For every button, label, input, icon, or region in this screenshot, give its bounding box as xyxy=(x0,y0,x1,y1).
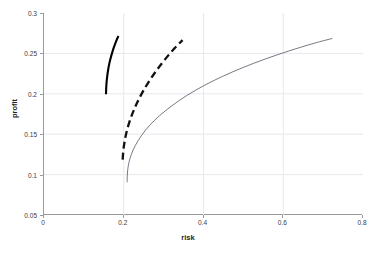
y-tick-mark xyxy=(40,13,43,14)
chart-container: 0.050.10.150.20.250.3 00.20.40.60.8 risk… xyxy=(0,0,376,254)
y-tick-label: 0.15 xyxy=(24,131,37,138)
x-tick-label: 0.8 xyxy=(357,219,366,226)
x-tick-mark xyxy=(362,215,363,218)
series-curve xyxy=(123,40,183,160)
x-axis-title: risk xyxy=(0,233,376,242)
plot-area xyxy=(43,13,362,215)
y-tick-mark xyxy=(40,134,43,135)
x-tick-mark xyxy=(43,215,44,218)
y-tick-mark xyxy=(40,53,43,54)
y-tick-label: 0.25 xyxy=(24,50,37,57)
data-series-group xyxy=(106,36,332,182)
series-curve xyxy=(106,36,118,94)
y-tick-mark xyxy=(40,175,43,176)
x-tick-mark xyxy=(123,215,124,218)
series-curve xyxy=(127,38,332,182)
x-tick-label: 0.4 xyxy=(198,219,207,226)
y-axis-tick-labels: 0.050.10.150.20.250.3 xyxy=(0,0,41,254)
y-tick-label: 0.2 xyxy=(28,90,37,97)
x-tick-mark xyxy=(282,215,283,218)
y-tick-label: 0.3 xyxy=(28,10,37,17)
plot-canvas xyxy=(44,13,363,215)
x-tick-mark xyxy=(203,215,204,218)
y-tick-mark xyxy=(40,94,43,95)
y-tick-label: 0.1 xyxy=(28,171,37,178)
x-tick-label: 0 xyxy=(41,219,45,226)
y-axis-title: profit xyxy=(10,79,19,139)
y-tick-label: 0.05 xyxy=(24,212,37,219)
x-tick-label: 0.6 xyxy=(278,219,287,226)
x-tick-label: 0.2 xyxy=(118,219,127,226)
